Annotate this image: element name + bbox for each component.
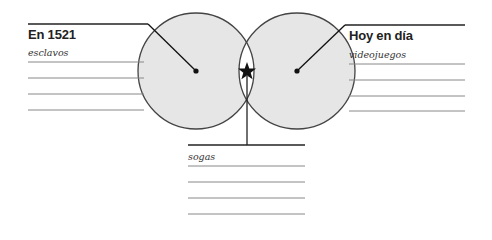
left-writing-lines — [28, 62, 144, 110]
left-dot-icon — [193, 68, 198, 73]
center-entry-1[interactable]: sogas — [188, 151, 215, 162]
right-entry-1[interactable]: videojuegos — [349, 49, 406, 60]
left-entry-1[interactable]: esclavos — [28, 47, 68, 58]
left-heading: En 1521 — [28, 27, 76, 42]
center-writing-lines — [188, 166, 305, 214]
right-heading: Hoy en día — [349, 28, 413, 43]
right-dot-icon — [294, 68, 299, 73]
right-writing-lines — [349, 64, 465, 111]
